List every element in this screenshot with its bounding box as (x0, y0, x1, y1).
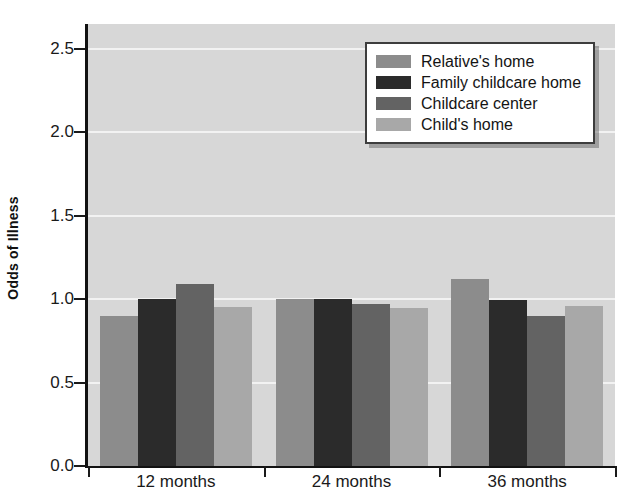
x-axis-separator (264, 466, 266, 477)
bar (314, 299, 352, 466)
legend-item: Child's home (376, 114, 581, 135)
bar (489, 300, 527, 466)
legend-label: Child's home (421, 117, 513, 133)
x-axis-group-label: 12 months (136, 472, 215, 492)
y-axis-tick-mark (74, 465, 85, 467)
bar (527, 316, 565, 466)
bar (100, 316, 138, 466)
bar (352, 304, 390, 466)
y-axis-tick-label: 2.5 (26, 39, 74, 59)
y-axis-tick-mark (74, 298, 85, 300)
x-axis-separator (88, 466, 90, 477)
y-axis-tick-mark (74, 131, 85, 133)
y-axis-tick-label: 0.0 (26, 456, 74, 476)
bar (451, 279, 489, 466)
bar (214, 307, 252, 466)
legend-label: Family childcare home (421, 75, 581, 91)
y-axis-tick-labels: 0.00.51.01.52.02.5 (22, 0, 74, 495)
bar (565, 306, 603, 466)
y-axis-tick-label: 1.0 (26, 289, 74, 309)
y-axis-tick-label: 0.5 (26, 373, 74, 393)
legend-label: Relative's home (421, 54, 534, 70)
y-axis-tick-label: 2.0 (26, 122, 74, 142)
legend-swatch (376, 118, 411, 131)
gridline (88, 215, 615, 217)
y-axis-tick-mark (74, 48, 85, 50)
x-axis-group-label: 36 months (487, 472, 566, 492)
legend: Relative's homeFamily childcare homeChil… (365, 42, 595, 144)
bar (390, 308, 428, 466)
x-axis-group-label: 24 months (312, 472, 391, 492)
legend-swatch (376, 97, 411, 110)
bar (276, 299, 314, 466)
bar (176, 284, 214, 466)
legend-item: Childcare center (376, 93, 581, 114)
legend-item: Family childcare home (376, 72, 581, 93)
legend-swatch (376, 55, 411, 68)
y-axis-title-text: Odds of Illness (5, 196, 21, 299)
y-axis-tick-mark (74, 382, 85, 384)
legend-label: Childcare center (421, 96, 538, 112)
x-axis-separator (439, 466, 441, 477)
y-axis-tick-mark (74, 215, 85, 217)
x-axis-separator (615, 466, 617, 477)
y-axis-tick-label: 1.5 (26, 206, 74, 226)
bar (138, 299, 176, 466)
legend-item: Relative's home (376, 51, 581, 72)
legend-swatch (376, 76, 411, 89)
bar-chart-figure: Odds of Illness 0.00.51.01.52.02.5 12 mo… (0, 0, 618, 495)
y-axis-title: Odds of Illness (2, 0, 24, 495)
